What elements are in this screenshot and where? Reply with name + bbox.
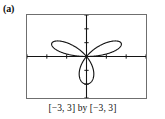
calculator-screen <box>26 14 147 99</box>
rose-curve-plot <box>27 15 146 98</box>
part-label: (a) <box>3 3 14 14</box>
viewing-window-caption: [−3, 3] by [−3, 3] <box>0 103 165 113</box>
figure-panel: (a) [−3, 3] by [−3, 3] <box>0 0 165 119</box>
